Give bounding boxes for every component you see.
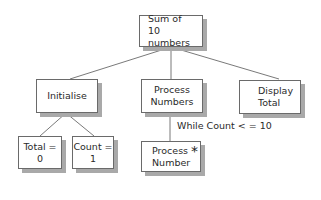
process-numbers-line1: Process <box>154 84 190 96</box>
box-display-total: Display Total <box>239 80 301 114</box>
box-initialise: Initialise <box>36 79 98 113</box>
loop-condition-label: While Count < = 10 <box>177 120 272 131</box>
root-line1: Sum of <box>148 13 202 25</box>
root-box-sum-of-10-numbers: Sum of 10 numbers <box>139 15 203 47</box>
process-numbers-line2: Numbers <box>150 96 193 108</box>
display-total-line2: Total <box>258 97 300 109</box>
box-count-equals-1: Count = 1 <box>72 136 114 169</box>
root-line2: 10 numbers <box>148 25 202 49</box>
box-total-equals-0: Total = 0 <box>18 136 62 169</box>
display-total-line1: Display <box>258 85 300 97</box>
box-process-numbers: Process Numbers <box>141 79 203 113</box>
box-process-number: Process Number * <box>141 141 201 172</box>
count-label: Count = 1 <box>73 141 113 165</box>
total-label: Total = 0 <box>19 141 61 165</box>
iteration-asterisk-icon: * <box>191 144 198 158</box>
initialise-label: Initialise <box>47 90 87 102</box>
